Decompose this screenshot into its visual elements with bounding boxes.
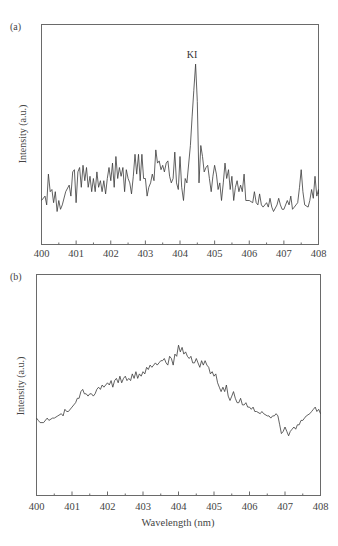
panel-b-plot-frame	[37, 275, 321, 496]
x-tick-label: 400	[34, 248, 50, 259]
panel-a-y-axis-label: Intensity (a.u.)	[17, 105, 29, 164]
x-tick-label: 408	[311, 248, 327, 259]
x-tick-label: 401	[68, 248, 84, 259]
x-tick-label: 405	[206, 501, 222, 512]
panel-b-x-axis-label: Wavelength (nm)	[142, 517, 215, 529]
x-tick-label: 408	[313, 501, 329, 512]
x-tick-label: 404	[172, 248, 189, 259]
panel-a-spectrum-line	[42, 64, 319, 211]
panel-b-spectrum-line	[37, 345, 321, 436]
x-tick-label: 403	[138, 248, 154, 259]
x-tick-label: 401	[64, 501, 80, 512]
x-tick-label: 407	[277, 501, 293, 512]
panel-a-x-tick-labels: 400401402403404405406407408	[34, 248, 327, 259]
x-tick-label: 406	[241, 248, 257, 259]
figure: (a) 400401402403404405406407408 KI Inten…	[0, 0, 338, 546]
x-tick-label: 400	[29, 501, 45, 512]
panel-b-label: (b)	[10, 271, 22, 283]
panel-a-x-ticks	[42, 241, 319, 245]
x-tick-label: 406	[242, 501, 258, 512]
panel-b-x-tick-labels: 400401402403404405406407408	[29, 501, 329, 512]
x-tick-label: 407	[276, 248, 292, 259]
x-tick-label: 403	[135, 501, 151, 512]
x-tick-label: 404	[171, 501, 188, 512]
x-tick-label: 402	[103, 248, 119, 259]
panel-a: (a) 400401402403404405406407408 KI Inten…	[10, 21, 326, 259]
panel-a-label: (a)	[10, 21, 21, 33]
ki-peak-annotation: KI	[187, 49, 198, 60]
panel-b-x-ticks	[37, 492, 321, 496]
panel-a-plot-frame	[42, 25, 319, 245]
panel-b: (b) 400401402403404405406407408 Intensit…	[10, 271, 328, 529]
panel-b-y-axis-label: Intensity (a.u.)	[15, 357, 27, 416]
x-tick-label: 402	[100, 501, 116, 512]
x-tick-label: 405	[207, 248, 223, 259]
